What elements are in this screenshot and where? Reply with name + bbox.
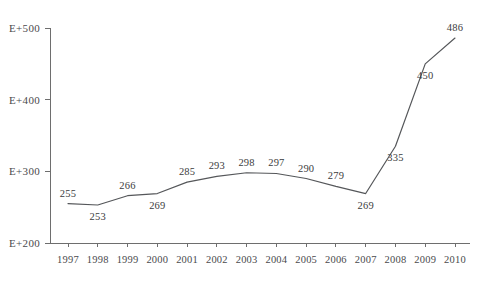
x-axis-tick-label: 2009 [414, 254, 436, 265]
data-point-label: 266 [119, 180, 135, 191]
x-axis-tick-label: 2010 [444, 254, 466, 265]
x-axis-tick-label: 2002 [206, 254, 228, 265]
data-point-label: 269 [149, 200, 165, 211]
data-point-label: 486 [447, 22, 463, 33]
data-point-label: 335 [387, 152, 403, 163]
x-axis-tick-label: 2003 [236, 254, 258, 265]
y-axis-tick-label: E+200 [9, 237, 40, 249]
line-chart-plot: E+200E+300E+400E+500 2552532662692852932… [0, 0, 482, 281]
data-point-label: 253 [90, 211, 106, 222]
y-axis-tick-label: E+400 [9, 94, 40, 106]
x-axis-tick-label: 2000 [146, 254, 168, 265]
data-point-label: 297 [268, 157, 284, 168]
x-axis-tick-label: 1997 [57, 254, 79, 265]
y-axis-tick-label: E+500 [9, 22, 40, 34]
data-point-label: 290 [298, 163, 314, 174]
x-axis-tick-label: 2008 [385, 254, 407, 265]
x-axis-tick-label: 2006 [325, 254, 347, 265]
x-axis-tick-label: 1998 [87, 254, 109, 265]
data-point-label: 450 [417, 70, 433, 81]
data-point-label: 298 [238, 157, 254, 168]
data-point-label: 279 [328, 170, 344, 181]
data-point-label: 285 [179, 166, 195, 177]
x-tick-labels: 1997199819992000200120022003200420052006… [57, 254, 466, 265]
data-labels: 2552532662692852932982972902792693354504… [60, 22, 463, 222]
y-axis: E+200E+300E+400E+500 [9, 22, 50, 249]
chart-figure: E+200E+300E+400E+500 2552532662692852932… [0, 0, 482, 281]
data-point-label: 293 [209, 160, 225, 171]
x-axis-tick-label: 2005 [295, 254, 317, 265]
x-axis [50, 243, 470, 247]
x-axis-tick-label: 2007 [355, 254, 377, 265]
y-axis-tick-label: E+300 [9, 165, 40, 177]
x-axis-tick-label: 2004 [265, 254, 287, 265]
x-axis-tick-label: 1999 [117, 254, 139, 265]
data-point-label: 269 [358, 200, 374, 211]
x-axis-tick-label: 2001 [176, 254, 198, 265]
data-point-label: 255 [60, 188, 76, 199]
